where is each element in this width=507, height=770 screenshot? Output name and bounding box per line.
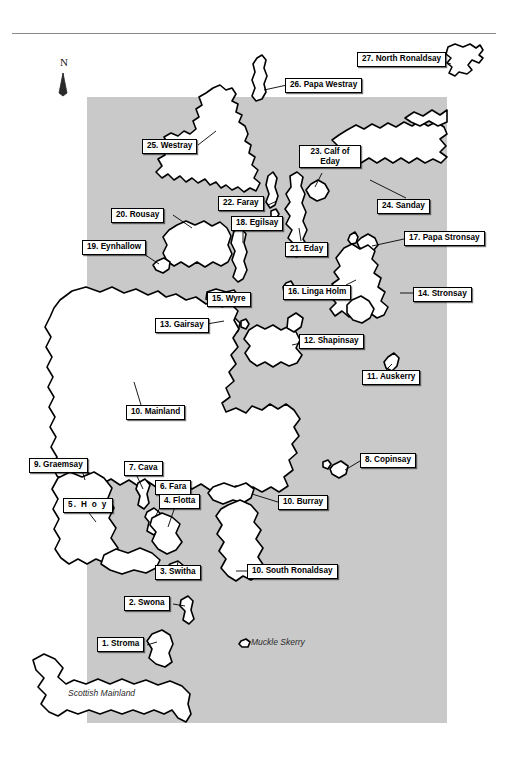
label-egilsay[interactable]: 18. Egilsay [231,216,283,231]
island-eynhallow [153,258,170,273]
label-gairsay[interactable]: 13. Gairsay [155,318,209,333]
north-arrow-icon [59,73,67,96]
leader-sanday [370,180,406,198]
islet-muckle-skerry [239,639,250,647]
north-letter: N [60,56,68,68]
label-burray[interactable]: 10. Burray [278,495,328,510]
island-hoy [52,472,118,564]
holm-of-gairsay [241,319,249,329]
island-auskerry [384,353,399,371]
island-north-ronaldsay [446,44,483,76]
label-hoy[interactable]: 5. H o y [63,498,113,513]
label-linga-holm[interactable]: 16. Linga Holm [283,285,351,300]
island-holm-small-east [348,232,358,244]
island-swona [180,596,194,624]
label-calf-of-eday-line2: Eday [320,157,340,166]
label-copinsay[interactable]: 8. Copinsay [360,453,416,468]
label-eday[interactable]: 21. Eday [285,242,328,257]
label-switha[interactable]: 3. Switha [155,565,201,580]
label-papa-westray[interactable]: 26. Papa Westray [285,78,362,93]
label-north-ronaldsay[interactable]: 27. North Ronaldsay [357,52,446,67]
label-auskerry[interactable]: 11. Auskerry [362,370,420,385]
island-flotta [150,513,182,554]
label-south-ronaldsay[interactable]: 10. South Ronaldsay [247,564,338,579]
label-flotta[interactable]: 4. Flotta [159,494,200,509]
corn-holm [323,460,331,469]
label-rousay[interactable]: 20. Rousay [111,208,164,223]
text-scottish-mainland: Scottish Mainland [68,688,135,698]
label-eynhallow[interactable]: 19. Eynhallow [82,240,146,255]
island-calf-of-eday [306,180,329,201]
map-figure: N 27. North Ronaldsay 26. Papa Westray 2… [0,0,507,770]
text-muckle-skerry: Muckle Skerry [251,637,305,647]
shapinsay-ne-arm [287,313,303,332]
label-calf-of-eday[interactable]: 23. Calf of Eday [299,145,361,168]
island-burray [208,483,254,504]
leader-papa-westray [264,85,287,90]
label-stroma[interactable]: 1. Stroma [97,637,144,652]
label-papa-stronsay[interactable]: 17. Papa Stronsay [404,231,485,246]
island-egilsay [231,228,247,282]
label-wyre[interactable]: 15. Wyre [207,292,251,307]
island-rousay [163,221,232,267]
south-walls [101,548,160,574]
label-sanday[interactable]: 24. Sanday [377,199,430,214]
island-stroma [147,630,173,667]
label-graemsay[interactable]: 9. Graemsay [29,458,88,473]
island-faray [266,172,278,208]
island-cava [136,479,150,509]
label-mainland[interactable]: 10. Mainland [126,405,185,420]
label-calf-of-eday-line1: 23. Calf of [310,147,349,156]
label-shapinsay[interactable]: 12. Shapinsay [299,334,364,349]
map-landmasses [0,0,507,770]
sanday-peninsula-ne [405,110,447,126]
label-fara[interactable]: 6. Fara [155,480,191,495]
label-swona[interactable]: 2. Swona [124,596,170,611]
label-cava[interactable]: 7. Cava [124,461,163,476]
label-faray[interactable]: 22. Faray [218,196,264,211]
island-papa-westray [252,55,267,101]
leader-burray [252,494,281,503]
label-stronsay[interactable]: 14. Stronsay [413,287,472,302]
label-westray[interactable]: 25. Westray [142,139,197,154]
